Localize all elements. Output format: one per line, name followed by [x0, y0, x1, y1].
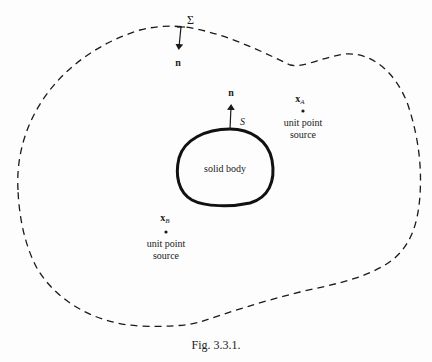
body-normal-label: n: [228, 87, 234, 98]
point-b-line2: source: [153, 250, 180, 261]
point-a-line2: source: [290, 129, 317, 140]
figure-caption: Fig. 3.3.1.: [191, 338, 240, 352]
point-b-dot: [164, 230, 167, 233]
body-normal-arrow: [230, 107, 231, 129]
point-b-symbol: xB: [160, 212, 170, 225]
sigma-label: Σ: [187, 13, 194, 27]
sigma-normal-arrow: [179, 27, 181, 47]
figure-canvas: Σ n n S solid body xA unit point source …: [0, 0, 432, 362]
solid-body-label: solid body: [204, 163, 246, 174]
point-a-symbol: xA: [295, 93, 305, 106]
surface-s-label: S: [240, 116, 245, 127]
point-a-line1: unit point: [284, 117, 323, 128]
outer-surface-sigma: [18, 26, 421, 326]
diagram: Σ n n S solid body xA unit point source …: [0, 0, 432, 362]
point-a-dot: [301, 109, 304, 112]
sigma-normal-label: n: [175, 57, 181, 68]
point-b-line1: unit point: [147, 238, 186, 249]
